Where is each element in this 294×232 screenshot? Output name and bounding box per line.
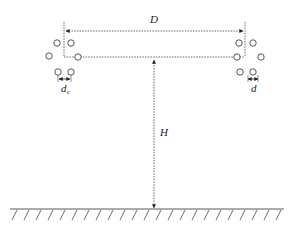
conductor-icon — [68, 40, 74, 46]
right-spacing-label: d — [251, 82, 257, 94]
conductor-icon — [55, 69, 61, 75]
width-label: D — [149, 13, 158, 25]
ground — [10, 209, 284, 220]
ground-hatching — [12, 210, 281, 220]
conductor-icon — [75, 54, 81, 60]
left-spacing-subscript: c — [67, 88, 71, 96]
width-dimension: D — [64, 13, 245, 57]
conductor-icon — [68, 69, 74, 75]
height-dimension: H — [154, 60, 169, 208]
conductor-icon — [250, 40, 256, 46]
left-conductor-bundle — [46, 40, 81, 75]
conductor-icon — [237, 69, 243, 75]
height-label: H — [159, 126, 169, 138]
left-spacing-dimension: d c — [58, 75, 71, 96]
right-conductor-bundle — [234, 40, 264, 75]
conductor-icon — [46, 53, 52, 59]
conductor-icon — [234, 54, 240, 60]
conductor-icon — [236, 40, 242, 46]
conductor-icon — [54, 40, 60, 46]
conductor-icon — [258, 54, 264, 60]
conductor-icon — [250, 69, 256, 75]
right-spacing-dimension: d — [248, 75, 258, 94]
transmission-line-diagram: D d c d H — [0, 0, 294, 232]
